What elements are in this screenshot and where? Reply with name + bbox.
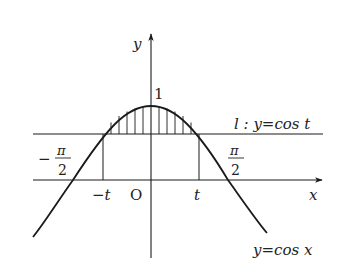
neg-t-label: −t <box>92 186 112 204</box>
svg-text:π: π <box>229 143 239 158</box>
peak-label: 1 <box>154 85 164 103</box>
x-axis-label: x <box>309 186 318 204</box>
svg-text:π: π <box>56 143 66 158</box>
pi-over-2-label: π 2 <box>228 143 244 178</box>
pos-t-label: t <box>194 186 201 204</box>
neg-pi-over-2-label: − π 2 <box>38 143 71 178</box>
diagram: y x O 1 −t t − π 2 π 2 l : y=cos t y=cos… <box>0 0 340 274</box>
y-axis-label: y <box>132 35 142 53</box>
origin-label: O <box>130 186 142 204</box>
curve-label: y=cos x <box>252 241 313 259</box>
svg-text:−: − <box>38 150 51 168</box>
svg-text:2: 2 <box>58 162 67 178</box>
line-l-label: l : y=cos t <box>234 115 311 133</box>
svg-text:2: 2 <box>231 162 240 178</box>
